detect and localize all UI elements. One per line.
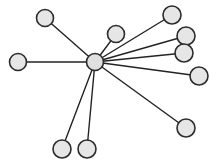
- node-layer: [10, 6, 209, 158]
- graph-node-leaf[interactable]: [53, 140, 71, 158]
- graph-node-leaf[interactable]: [177, 119, 195, 137]
- graph-node-leaf[interactable]: [177, 27, 195, 45]
- graph-node-hub[interactable]: [87, 54, 104, 71]
- graph-node-leaf[interactable]: [37, 10, 54, 27]
- graph-canvas: [0, 0, 221, 167]
- graph-node-leaf[interactable]: [175, 44, 193, 62]
- graph-edge[interactable]: [45, 18, 95, 62]
- graph-figure: [0, 0, 221, 167]
- graph-edge[interactable]: [87, 62, 95, 149]
- graph-node-leaf[interactable]: [108, 26, 125, 43]
- graph-edge[interactable]: [62, 62, 95, 149]
- graph-node-leaf[interactable]: [190, 67, 208, 85]
- graph-node-leaf[interactable]: [10, 54, 27, 71]
- graph-node-leaf[interactable]: [163, 6, 181, 24]
- graph-node-leaf[interactable]: [78, 140, 96, 158]
